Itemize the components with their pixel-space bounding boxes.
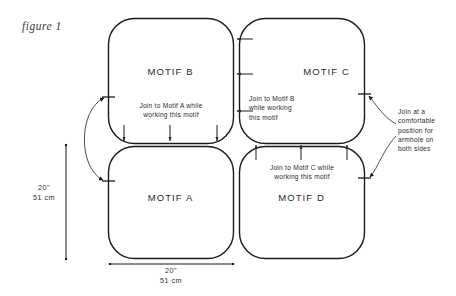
motif-d-label: MOTIF D — [239, 192, 364, 203]
motif-c-label: MOTIF C — [264, 66, 389, 77]
left-armhole-curved-arrow — [84, 98, 104, 180]
right-armhole-arrow-upper — [369, 96, 396, 124]
motif-d-join-note-line-2: working this motif — [243, 172, 361, 181]
horizontal-dimension-imperial: 20" — [133, 266, 209, 276]
horizontal-dimension-label: 20" 51 cm — [133, 266, 209, 287]
diagram-canvas — [0, 0, 456, 296]
armhole-join-note: Join at a comfortable position for armho… — [398, 107, 454, 154]
armhole-join-note-line-3: position for — [398, 126, 454, 135]
vertical-dimension-metric: 51 cm — [26, 193, 62, 203]
motif-b-label: MOTIF B — [108, 66, 233, 77]
motif-b-join-note-line-1: Join to Motif A while — [113, 101, 229, 110]
motif-c-join-note-line-3: this motif — [249, 113, 335, 122]
motif-b-shape — [109, 19, 234, 144]
motif-c-join-note-line-2: while working — [249, 103, 335, 112]
motif-b-join-note-line-2: working this motif — [113, 110, 229, 119]
figure-diagram: figure 1 MOTIF B MOTIF C MOTIF A MOTIF D… — [0, 0, 456, 296]
vertical-dimension-label: 20" 51 cm — [26, 183, 62, 204]
figure-caption: figure 1 — [22, 20, 62, 32]
motif-c-join-note-line-1: Join to Motif B — [249, 94, 335, 103]
armhole-join-note-line-5: both sides — [398, 144, 454, 153]
motif-a-label: MOTIF A — [108, 192, 233, 203]
motif-d-join-note: Join to Motif C while working this motif — [243, 163, 361, 182]
armhole-join-note-line-1: Join at a — [398, 107, 454, 116]
horizontal-dimension-metric: 51 cm — [133, 276, 209, 286]
armhole-join-note-line-2: comfortable — [398, 116, 454, 125]
motif-c-shape — [240, 19, 365, 144]
motif-c-join-note: Join to Motif B while working this motif — [249, 94, 335, 122]
motif-d-join-note-line-1: Join to Motif C while — [243, 163, 361, 172]
right-armhole-arrow-lower — [370, 136, 396, 177]
join-arrows-b-to-a — [124, 125, 217, 141]
vertical-dimension-imperial: 20" — [26, 183, 62, 193]
join-arrows-d-to-c — [256, 145, 347, 160]
motif-b-join-note: Join to Motif A while working this motif — [113, 101, 229, 120]
armhole-join-note-line-4: armhole on — [398, 135, 454, 144]
